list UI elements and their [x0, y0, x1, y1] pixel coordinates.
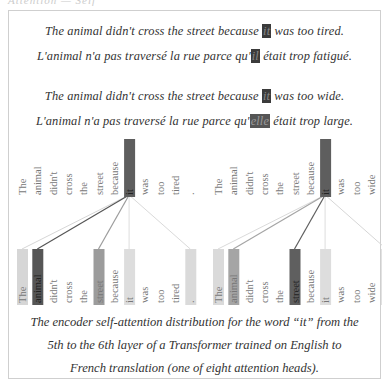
bottom-token: street [94, 280, 105, 303]
top-token: wide [366, 174, 377, 195]
top-token: cross [63, 173, 74, 195]
bottom-token: it [124, 297, 135, 303]
bottom-token: tired [170, 283, 181, 303]
bottom-token: too [351, 290, 362, 303]
attention-weight-bar [320, 249, 331, 305]
bottom-token: was [335, 287, 346, 303]
top-token: was [335, 179, 346, 195]
top-token: animal [228, 166, 239, 195]
top-token: the [274, 182, 285, 195]
top-token: didn't [48, 171, 59, 195]
top-token: it [320, 189, 331, 195]
top-token: The [17, 178, 28, 195]
bottom-token: The [17, 286, 28, 303]
attention-line [37, 195, 129, 249]
bottom-token: . [185, 300, 196, 303]
figure-caption: The encoder self-attention distribution … [9, 311, 380, 380]
bottom-token: cross [63, 281, 74, 303]
top-token: too [155, 182, 166, 195]
bottom-token: it [320, 297, 331, 303]
top-token: didn't [244, 171, 255, 195]
top-token: street [290, 172, 301, 195]
top-token: too [351, 182, 362, 195]
top-token: The [213, 178, 224, 195]
source-token-bar [320, 139, 331, 197]
attention-diagram-tired: Theanimaldidn'tcrossthestreetbecauseitwa… [17, 139, 196, 305]
top-token: because [109, 161, 120, 195]
bottom-token: wide [366, 282, 377, 303]
bottom-token: . [381, 300, 382, 303]
attention-diagrams: Theanimaldidn'tcrossthestreetbecauseitwa… [9, 11, 382, 311]
bottom-token: cross [259, 281, 270, 303]
figure-frame: The animal didn't cross the street becau… [8, 10, 381, 379]
attention-line [325, 195, 382, 249]
bottom-token: was [139, 287, 150, 303]
bottom-token: street [290, 280, 301, 303]
source-token-bar [124, 139, 135, 197]
attention-line [129, 195, 190, 249]
bottom-token: animal [228, 274, 239, 303]
bottom-token: because [305, 269, 316, 303]
top-token: animal [32, 166, 43, 195]
cropped-title: Attention — Self [8, 0, 96, 6]
bottom-token: The [213, 286, 224, 303]
top-token: . [381, 192, 382, 195]
bottom-token: animal [32, 274, 43, 303]
attention-weight-bar [381, 249, 382, 305]
top-token: cross [259, 173, 270, 195]
attention-line [233, 195, 325, 249]
bottom-token: the [274, 290, 285, 303]
top-token: . [185, 192, 196, 195]
top-token: street [94, 172, 105, 195]
top-token: it [124, 189, 135, 195]
attention-diagram-wide: Theanimaldidn'tcrossthestreetbecauseitwa… [213, 139, 382, 305]
top-token: because [305, 161, 316, 195]
bottom-token: didn't [48, 279, 59, 303]
caption-line-2: 5th to the 6th layer of a Transformer tr… [9, 334, 380, 357]
attention-weight-bar [124, 249, 135, 305]
attention-weight-bar [185, 249, 196, 305]
bottom-token: too [155, 290, 166, 303]
attention-line [218, 195, 325, 249]
bottom-token: because [109, 269, 120, 303]
bottom-token: didn't [244, 279, 255, 303]
top-token: tired [170, 175, 181, 195]
top-token: was [139, 179, 150, 195]
caption-line-3: French translation (one of eight attenti… [9, 357, 380, 380]
bottom-token: the [78, 290, 89, 303]
top-token: the [78, 182, 89, 195]
caption-line-1: The encoder self-attention distribution … [9, 311, 380, 334]
attention-line [22, 195, 129, 249]
